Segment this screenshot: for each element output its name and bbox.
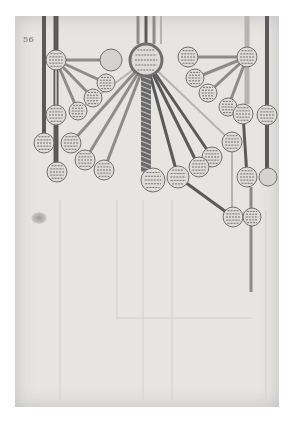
roundel bbox=[141, 168, 165, 192]
roundel bbox=[178, 47, 198, 67]
roundel bbox=[233, 104, 253, 124]
faint-ruling bbox=[60, 200, 266, 400]
empty-roundel bbox=[100, 49, 122, 71]
roundel bbox=[223, 207, 243, 227]
roundel bbox=[46, 105, 66, 125]
roundel bbox=[46, 50, 66, 70]
roundel bbox=[69, 102, 87, 120]
roundel bbox=[130, 44, 162, 76]
braided-trunk bbox=[141, 76, 151, 175]
roundel bbox=[84, 89, 102, 107]
roundel bbox=[243, 208, 261, 226]
roundel bbox=[189, 157, 209, 177]
roundel bbox=[167, 166, 189, 188]
roundel bbox=[237, 167, 257, 187]
roundel bbox=[34, 133, 54, 153]
genealogy-tree-diagram bbox=[0, 0, 294, 423]
roundel bbox=[222, 132, 242, 152]
roundel bbox=[237, 47, 257, 67]
roundel bbox=[47, 162, 67, 182]
empty-roundel bbox=[259, 168, 277, 186]
roundel bbox=[257, 105, 277, 125]
roundel bbox=[75, 150, 95, 170]
roundel bbox=[97, 74, 115, 92]
connector-bar bbox=[85, 60, 146, 160]
roundel bbox=[199, 84, 217, 102]
roundel bbox=[186, 69, 204, 87]
connector-bars bbox=[56, 57, 247, 217]
roundel bbox=[94, 160, 114, 180]
roundel bbox=[61, 133, 81, 153]
